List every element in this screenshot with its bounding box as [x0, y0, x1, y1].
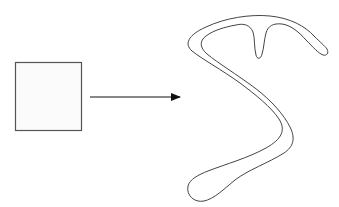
- source-rectangle: [16, 63, 82, 131]
- target-blob: [188, 15, 328, 201]
- diagram-canvas: [0, 0, 339, 207]
